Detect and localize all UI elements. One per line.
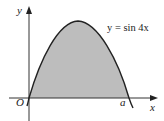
origin-label: O [16,96,24,108]
root-label-a: a [120,96,126,108]
y-axis-label: y [16,4,22,16]
sine-graph: y x O a y = sin 4x [0,0,164,121]
x-axis-label: x [149,101,155,113]
y-axis-arrow-icon [26,6,32,14]
equation-label: y = sin 4x [107,22,150,33]
